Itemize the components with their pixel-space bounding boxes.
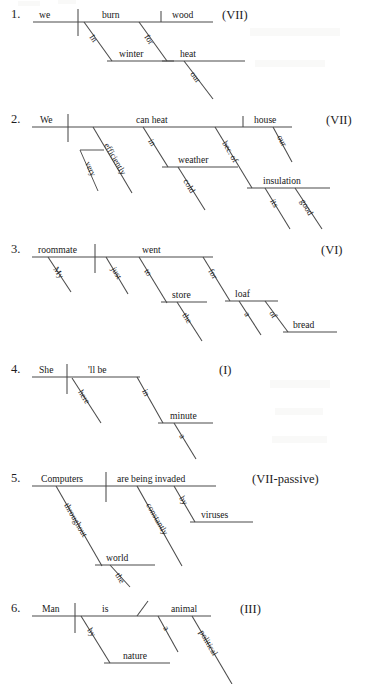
- word-verb: burn: [102, 9, 120, 20]
- word-complement: animal: [171, 603, 197, 614]
- word-subject: roommate: [38, 244, 77, 255]
- word-constantly: constantly: [144, 501, 171, 537]
- pattern-label: (III): [240, 602, 261, 616]
- diagram-number: 3.: [11, 242, 20, 256]
- word-winter: winter: [119, 48, 144, 59]
- word-for: for: [142, 32, 156, 46]
- word-subject: we: [39, 9, 50, 20]
- predicate-nominative-divider: [137, 601, 148, 616]
- word-bread: bread: [293, 319, 315, 330]
- word-political: political: [197, 628, 220, 658]
- word-cold: cold: [181, 177, 198, 195]
- word-in: in: [146, 137, 158, 148]
- word-throughout: throughout: [62, 501, 90, 539]
- modifier-slant-its: [265, 188, 290, 229]
- word-in: In: [87, 32, 100, 44]
- word-its: its: [268, 197, 281, 210]
- prep-slant-in: [143, 127, 168, 167]
- diagram-5: 5. Computers are being invaded (VII-pass…: [0, 462, 371, 587]
- word-good: good: [298, 197, 316, 217]
- word-the: the: [113, 571, 127, 585]
- diagram-number: 6.: [11, 601, 20, 615]
- word-a: a: [177, 432, 188, 441]
- word-here: here: [76, 388, 92, 406]
- word-subject: We: [40, 114, 53, 125]
- word-a: a: [242, 310, 253, 319]
- word-subject: She: [39, 364, 53, 375]
- pattern-label: (VII): [222, 8, 248, 22]
- word-store: store: [172, 289, 191, 300]
- word-object: wood: [172, 9, 194, 20]
- pattern-label: (VII): [326, 113, 352, 127]
- diagram-number: 5.: [11, 471, 20, 485]
- diagram-number: 1.: [11, 7, 20, 21]
- word-insulation: insulation: [263, 175, 301, 186]
- word-verb: is: [102, 603, 109, 614]
- word-by: by: [85, 626, 98, 639]
- word-subject: Computers: [41, 473, 83, 484]
- word-to: to: [142, 267, 154, 278]
- word-for: for: [206, 267, 220, 281]
- word-verb: are being invaded: [117, 473, 185, 484]
- diagram-2: 2. We can heat house (VII) efficiently v…: [0, 105, 371, 230]
- word-world: world: [106, 552, 129, 563]
- pattern-label: (VII-passive): [252, 472, 319, 486]
- pattern-label: (I): [219, 363, 232, 377]
- word-in: in: [140, 387, 152, 398]
- word-viruses: viruses: [201, 509, 228, 520]
- word-object: house: [254, 114, 276, 125]
- word-heat: heat: [180, 48, 196, 59]
- word-verb: can heat: [136, 114, 168, 125]
- diagram-1: 1. we burn wood (VII) In winter for heat…: [0, 0, 371, 100]
- modifier-slant-a: [239, 301, 261, 335]
- word-verb: 'll be: [88, 364, 107, 375]
- prep-slant-by: [81, 616, 110, 663]
- word-my: My: [51, 265, 66, 281]
- prep-slant-to: [139, 257, 167, 303]
- modifier-slant-a: [174, 423, 196, 459]
- diagram-number: 4.: [11, 362, 20, 376]
- word-weather: weather: [178, 154, 209, 165]
- pattern-label: (VI): [321, 243, 343, 257]
- word-efficiently: efficiently: [102, 141, 129, 177]
- diagram-3: 3. roommate went (VI) My just to store t…: [0, 235, 371, 350]
- word-bec-of: bec. of: [220, 139, 240, 164]
- word-very: very: [83, 160, 99, 179]
- prep-slant-for: [203, 257, 230, 301]
- word-nature: nature: [123, 650, 147, 661]
- diagram-page: 1. we burn wood (VII) In winter for heat…: [0, 0, 371, 684]
- word-subject: Man: [42, 603, 60, 614]
- word-the: the: [180, 311, 194, 325]
- diagram-6: 6. Man is animal (III) by nature a polit…: [0, 592, 371, 684]
- word-minute: minute: [170, 410, 197, 421]
- word-our: our: [188, 69, 203, 84]
- modifier-slant-a: [158, 616, 178, 652]
- word-verb: went: [142, 244, 161, 255]
- diagram-4: 4. She 'll be (I) here in minute a: [0, 355, 371, 460]
- word-loaf: loaf: [235, 288, 251, 299]
- diagram-number: 2.: [11, 112, 20, 126]
- prep-slant-in: [137, 377, 163, 423]
- prep-slant-in: [84, 22, 112, 61]
